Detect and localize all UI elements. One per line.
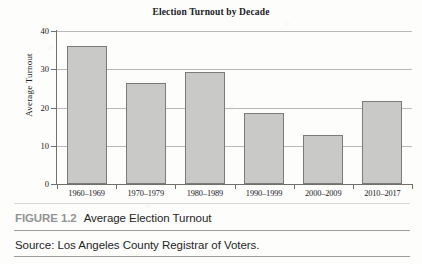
y-tick-label: 0 [23, 179, 49, 189]
y-tick-label-wrap: 40 [19, 26, 49, 36]
y-tick-label-wrap: 10 [19, 141, 49, 151]
x-tick-label: 1960–1969 [56, 189, 118, 198]
gridline [57, 146, 412, 147]
y-axis-title: Average Turnout [24, 35, 34, 135]
scanned-figure-page: Election Turnout by Decade Average Turno… [0, 0, 422, 264]
x-tick-label: 2000–2009 [292, 189, 354, 198]
y-tick-label-wrap: 0 [19, 179, 49, 189]
x-tick-label: 1980–1989 [174, 189, 236, 198]
caption-rule-middle [14, 230, 410, 231]
y-tick-label: 40 [23, 26, 49, 36]
figure-caption-text: Average Election Turnout [84, 212, 212, 224]
gridline [57, 31, 412, 32]
gridline [57, 69, 412, 70]
plot-area [57, 31, 412, 184]
y-tick-label: 30 [23, 64, 49, 74]
y-tick-label-wrap: 20 [19, 103, 49, 113]
bar [185, 72, 225, 184]
caption-rule-bottom [14, 256, 410, 257]
bar [362, 101, 402, 184]
figure-caption: FIGURE 1.2 Average Election Turnout [15, 208, 411, 228]
gridline [57, 108, 412, 109]
y-tick-label-wrap: 30 [19, 64, 49, 74]
y-tick-label: 10 [23, 141, 49, 151]
bar [126, 83, 166, 184]
figure-chart-region: Election Turnout by Decade Average Turno… [0, 0, 422, 200]
bar [303, 135, 343, 184]
x-tick-label: 1970–1979 [115, 189, 177, 198]
figure-source: Source: Los Angeles County Registrar of … [15, 236, 411, 254]
bar [67, 46, 107, 184]
x-tick-label: 2010–2017 [351, 189, 413, 198]
figure-number: FIGURE 1.2 [15, 212, 77, 224]
x-tick-label: 1990–1999 [233, 189, 295, 198]
caption-rule-top [14, 203, 410, 204]
bar [244, 113, 284, 184]
y-tick-label: 20 [23, 103, 49, 113]
chart-title: Election Turnout by Decade [0, 7, 422, 17]
